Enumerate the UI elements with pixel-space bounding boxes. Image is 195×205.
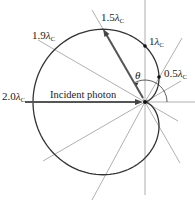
- label-0.5-lambda: 0.5λC: [164, 68, 187, 81]
- incident-photon-label: Incident photon: [50, 90, 116, 101]
- ray-240: [92, 102, 145, 200]
- ray-210: [43, 102, 145, 161]
- ray-300: [145, 102, 180, 163]
- shift-points: [143, 44, 161, 104]
- label-1.9-lambda: 1.9λC: [32, 30, 55, 43]
- label-2.0-lambda: 2.0λC: [2, 91, 25, 104]
- compton-polar-diagram: [0, 0, 195, 205]
- label-1-lambda: 1λC: [149, 36, 164, 49]
- label-1.5-lambda: 1.5λC: [101, 12, 124, 25]
- point-0.5-lambda: [157, 75, 161, 79]
- point-1-lambda: [143, 44, 147, 48]
- theta-label: θ: [135, 70, 140, 81]
- origin-point: [143, 100, 147, 104]
